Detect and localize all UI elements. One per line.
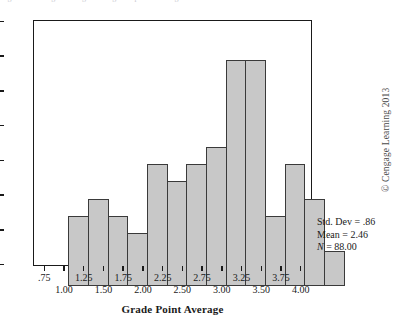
x-tick-mark xyxy=(142,266,143,271)
x-tick-label: 2.75 xyxy=(193,272,211,284)
histogram-bar xyxy=(324,251,345,286)
x-tick-mark xyxy=(261,266,262,271)
x-tick-label: 4.00 xyxy=(292,284,310,296)
x-tick-mark xyxy=(221,266,222,271)
x-axis-title: Grade Point Average xyxy=(33,303,312,315)
x-tick-label: 1.75 xyxy=(114,272,132,284)
y-tick-mark xyxy=(0,90,4,91)
bar-series xyxy=(68,42,344,285)
statistics-annotation: Std. Dev = .86 Mean = 2.46 N = 88.00 xyxy=(317,216,375,254)
y-axis: 02468101214 xyxy=(0,0,33,287)
histogram-bar xyxy=(206,147,227,286)
x-tick-mark xyxy=(63,266,64,271)
y-tick-mark xyxy=(0,264,4,265)
n-symbol: N xyxy=(317,241,324,252)
y-tick-mark xyxy=(0,160,4,161)
x-tick-label: 3.75 xyxy=(272,272,290,284)
x-tick-label: .75 xyxy=(38,272,51,284)
y-tick-mark xyxy=(0,194,4,195)
x-tick-label: 2.00 xyxy=(134,284,152,296)
y-tick-mark xyxy=(0,229,4,230)
x-tick-label: 1.25 xyxy=(75,272,93,284)
x-tick-mark xyxy=(201,266,202,271)
x-tick-mark xyxy=(182,266,183,271)
copyright-notice: © Cengage Learning 2013 xyxy=(381,62,391,192)
histogram-bar xyxy=(226,60,247,286)
y-tick-mark xyxy=(0,125,4,126)
x-tick-label: 2.50 xyxy=(174,284,192,296)
x-tick-mark xyxy=(122,266,123,271)
histogram-figure: 02468101214 .751.001.251.501.752.002.252… xyxy=(0,0,405,327)
x-tick-mark xyxy=(162,266,163,271)
x-tick-label: 3.25 xyxy=(233,272,251,284)
mean-label: Mean = 2.46 xyxy=(317,229,375,242)
x-tick-mark xyxy=(103,266,104,271)
y-tick-mark xyxy=(0,55,4,56)
x-tick-mark xyxy=(280,266,281,271)
n-value: = 88.00 xyxy=(324,241,357,252)
x-tick-mark xyxy=(44,266,45,271)
x-tick-label: 1.00 xyxy=(55,284,73,296)
x-tick-label: 3.00 xyxy=(213,284,231,296)
x-tick-label: 3.50 xyxy=(253,284,271,296)
x-tick-mark xyxy=(241,266,242,271)
y-tick-mark xyxy=(0,21,4,22)
x-tick-mark xyxy=(83,266,84,271)
x-tick-mark xyxy=(300,266,301,271)
sample-size-label: N = 88.00 xyxy=(317,241,375,254)
x-tick-label: 1.50 xyxy=(95,284,113,296)
plot-area xyxy=(33,20,312,266)
std-dev-label: Std. Dev = .86 xyxy=(317,216,375,229)
histogram-bar xyxy=(245,60,266,286)
x-tick-label: 2.25 xyxy=(154,272,172,284)
x-axis: .751.001.251.501.752.002.252.502.753.003… xyxy=(33,266,312,306)
